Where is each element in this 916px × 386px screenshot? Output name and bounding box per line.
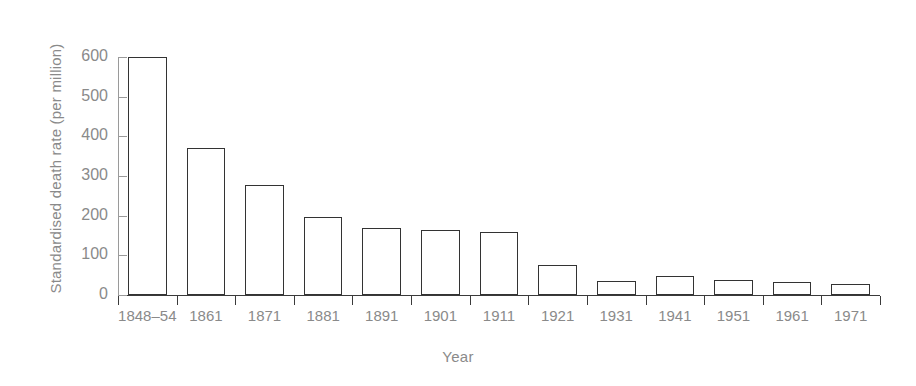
bar: [538, 265, 577, 295]
y-tick-label: 600: [62, 48, 108, 64]
bar: [656, 276, 695, 295]
bar: [245, 185, 284, 295]
x-tick-mark: [118, 296, 119, 305]
bar: [773, 282, 812, 295]
x-tick-mark: [763, 296, 764, 305]
y-tick-label: 300: [62, 167, 108, 183]
y-axis-title: Standardised death rate (per million): [47, 19, 64, 319]
x-axis-line: [118, 295, 880, 296]
bar-chart: Standardised death rate (per million) 01…: [0, 0, 916, 386]
x-axis-title: Year: [0, 348, 916, 365]
y-tick-label: 400: [62, 127, 108, 143]
bar: [362, 228, 401, 295]
bar: [187, 148, 226, 295]
x-tick-mark: [646, 296, 647, 305]
bar: [714, 280, 753, 295]
x-tick-mark: [177, 296, 178, 305]
x-tick-mark: [528, 296, 529, 305]
bar: [128, 57, 167, 295]
bar: [597, 281, 636, 295]
x-tick-mark: [352, 296, 353, 305]
bar: [304, 217, 343, 295]
x-tick-mark: [235, 296, 236, 305]
bar: [480, 232, 519, 295]
y-tick-label: 500: [62, 88, 108, 104]
y-tick-label: 200: [62, 207, 108, 223]
y-tick-mark: [118, 295, 127, 296]
x-tick-mark: [411, 296, 412, 305]
x-tick-mark: [470, 296, 471, 305]
bar: [831, 284, 870, 295]
bars-layer: [118, 57, 880, 295]
x-tick-mark: [880, 296, 881, 305]
x-tick-mark: [704, 296, 705, 305]
y-tick-label: 100: [62, 246, 108, 262]
x-tick-mark: [587, 296, 588, 305]
x-tick-label: 1971: [807, 308, 895, 325]
x-tick-mark: [821, 296, 822, 305]
bar: [421, 230, 460, 295]
x-tick-mark: [294, 296, 295, 305]
y-tick-label: 0: [62, 286, 108, 302]
